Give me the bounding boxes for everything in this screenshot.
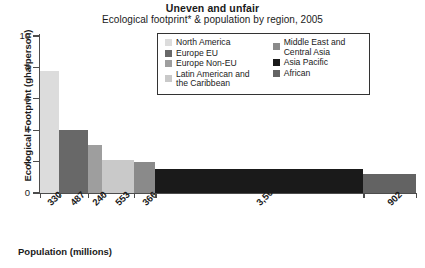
y-tick-label-2: 2: [8, 156, 30, 167]
x-tick-3,562: [155, 193, 156, 198]
chart-title: Uneven and unfair: [0, 2, 425, 14]
legend-column-right: Middle East and Central AsiaAsia Pacific…: [273, 38, 363, 94]
bar-5: [134, 162, 155, 193]
y-tick-label-10: 10: [8, 30, 30, 41]
y-tick-2: [33, 161, 39, 162]
legend-label: Latin American and the Caribbean: [176, 70, 250, 89]
bar-3: [88, 145, 102, 193]
y-tick-0: [33, 192, 39, 193]
legend-swatch-icon: [165, 60, 172, 67]
legend-label: Europe Non-EU: [176, 59, 237, 69]
y-tick-label-4: 4: [8, 124, 30, 135]
legend-item-left-3: Europe Non-EU: [165, 59, 273, 69]
legend-swatch-icon: [165, 50, 172, 57]
y-tick-label-8: 8: [8, 61, 30, 72]
bar-1: [40, 71, 59, 193]
legend-item-left-4: Latin American and the Caribbean: [165, 70, 273, 89]
x-tick-553: [102, 193, 103, 198]
legend-item-left-1: North America: [165, 38, 273, 48]
x-tick-366: [134, 193, 135, 198]
legend-swatch-icon: [273, 59, 280, 66]
x-tick-902: [363, 193, 364, 198]
bar-2: [59, 130, 87, 193]
legend-item-left-2: Europe EU: [165, 49, 273, 59]
y-tick-label-6: 6: [8, 93, 30, 104]
y-tick-8: [33, 67, 39, 68]
bar-4: [102, 160, 134, 193]
x-tick-487: [59, 193, 60, 198]
legend-item-right-1: Middle East and Central Asia: [273, 38, 363, 57]
bar-6: [155, 169, 363, 193]
x-axis-title: Population (millions): [18, 246, 112, 257]
chart-legend: North AmericaEurope EUEurope Non-EULatin…: [157, 33, 370, 95]
y-tick-4: [33, 130, 39, 131]
legend-swatch-icon: [165, 75, 172, 82]
legend-swatch-icon: [273, 70, 280, 77]
y-axis-title: Ecological Footprint (gha/person): [22, 16, 33, 196]
legend-label: Europe EU: [176, 49, 218, 59]
x-tick-end: [416, 193, 417, 198]
legend-label: Middle East and Central Asia: [284, 38, 346, 57]
y-tick-6: [33, 98, 39, 99]
bar-7: [363, 174, 416, 193]
legend-swatch-icon: [165, 39, 172, 46]
x-tick-240: [88, 193, 89, 198]
chart-figure: Uneven and unfair Ecological footprint* …: [0, 0, 425, 268]
legend-column-left: North AmericaEurope EUEurope Non-EULatin…: [165, 38, 273, 94]
legend-swatch-icon: [273, 43, 280, 50]
y-tick-label-0: 0: [8, 187, 30, 198]
legend-label: African: [284, 69, 311, 79]
legend-label: North America: [176, 38, 230, 48]
x-tick-330: [40, 193, 41, 198]
chart-subtitle: Ecological footprint* & population by re…: [0, 14, 425, 25]
legend-item-right-3: African: [273, 69, 363, 79]
legend-item-right-2: Asia Pacific: [273, 58, 363, 68]
legend-label: Asia Pacific: [284, 58, 328, 68]
y-tick-10: [33, 35, 39, 36]
